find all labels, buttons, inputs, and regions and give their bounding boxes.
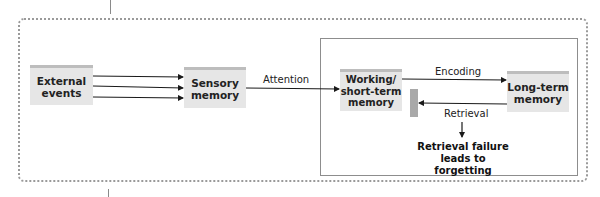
external-to-sensory-arrow-2	[93, 86, 183, 88]
encoding-arrow	[402, 79, 506, 80]
retrieval-arrow	[419, 103, 507, 104]
external-to-sensory-arrow-3	[93, 97, 183, 98]
connector-arrows	[0, 0, 600, 197]
attention-arrow	[246, 88, 339, 89]
external-to-sensory-arrow-1	[93, 76, 183, 77]
